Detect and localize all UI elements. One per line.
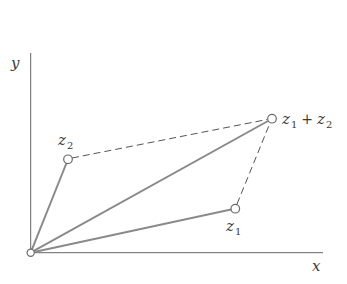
y-axis-label: y [10, 54, 20, 72]
z2-label: z2 [57, 131, 73, 151]
z1-label: z1 [225, 217, 241, 237]
point-sum [268, 114, 277, 123]
vector-z2 [31, 163, 67, 253]
x-axis-label: x [312, 257, 321, 275]
vector-addition-diagram: y x z2 z1 z1+z2 [0, 0, 347, 284]
point-z2 [64, 155, 73, 164]
vector-z1 [31, 210, 231, 253]
point-origin [27, 249, 34, 256]
point-z1 [231, 204, 240, 213]
sum-label: z1+z2 [281, 110, 332, 130]
